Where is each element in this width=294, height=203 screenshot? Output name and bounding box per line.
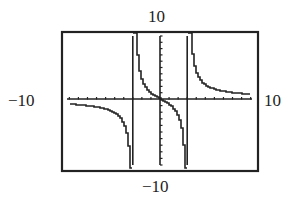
axes — [67, 36, 252, 165]
graph-screen — [0, 0, 294, 203]
